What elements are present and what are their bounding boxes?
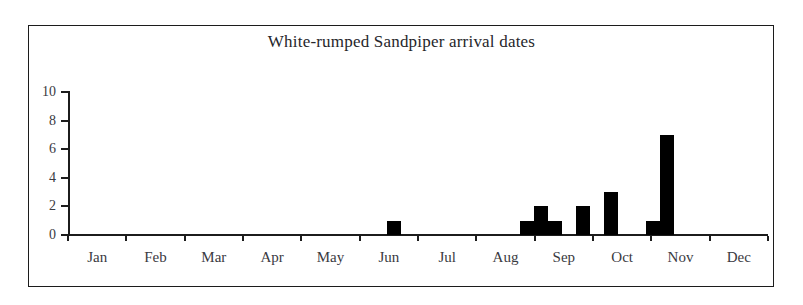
y-tick-label: 2	[26, 199, 56, 213]
x-tick	[359, 236, 361, 241]
x-tick	[650, 236, 652, 241]
x-tick	[417, 236, 419, 241]
chart-title: White-rumped Sandpiper arrival dates	[0, 32, 803, 52]
bar	[604, 192, 618, 235]
x-tick	[709, 236, 711, 241]
bar	[387, 221, 401, 235]
y-tick-label: 8	[26, 114, 56, 128]
y-tick-label: 6	[26, 142, 56, 156]
x-tick	[300, 236, 302, 241]
x-tick-label: Dec	[704, 250, 774, 265]
x-tick	[67, 236, 69, 241]
x-tick	[475, 236, 477, 241]
y-tick-label: 0	[26, 228, 56, 242]
chart-figure: White-rumped Sandpiper arrival dates 024…	[0, 0, 803, 305]
bar	[576, 206, 590, 235]
y-tick-label: 4	[26, 171, 56, 185]
bar	[520, 221, 534, 235]
x-tick	[767, 236, 769, 241]
bar	[646, 221, 660, 235]
bar-series	[68, 92, 768, 235]
x-tick	[242, 236, 244, 241]
bar	[548, 221, 562, 235]
x-tick	[534, 236, 536, 241]
bar	[534, 206, 548, 235]
x-tick	[592, 236, 594, 241]
x-tick	[184, 236, 186, 241]
bar	[660, 135, 674, 235]
x-tick	[125, 236, 127, 241]
y-tick-label: 10	[26, 85, 56, 99]
